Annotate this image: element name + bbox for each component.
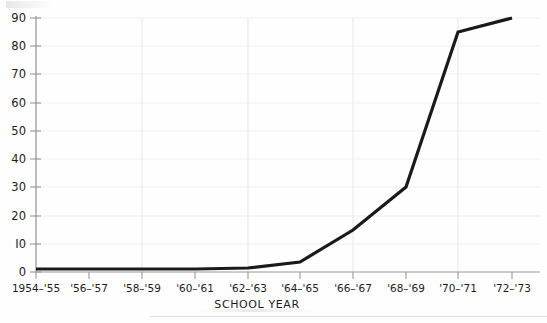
y-tick-label-50: 50 [11,124,26,138]
y-tick-label-90: 90 [11,11,26,25]
x-tick-label-9: '72–'73 [493,282,531,294]
x-tick-label-8: '70–'71 [439,282,477,294]
x-tick-label-6: '66–'67 [334,282,372,294]
y-tick-label-80: 80 [11,39,26,53]
x-axis-tick-labels: 1954–'55 '56–'57 '58–'59 '60–'61 '62–'63… [12,282,531,294]
y-tick-label-0: 0 [19,265,26,279]
x-tick-label-3: '60–'61 [176,282,214,294]
y-tick-label-40: 40 [11,152,26,166]
gridlines-vertical [36,18,458,272]
y-axis-tick-labels: 90 80 70 60 50 40 30 20 I0 0 [11,11,26,279]
y-tick-label-70: 70 [11,67,26,81]
line-chart-plot: 90 80 70 60 50 40 30 20 I0 0 1954–'55 [0,0,547,323]
y-tick-label-10: I0 [15,237,26,251]
y-tick-label-60: 60 [11,96,26,110]
y-tick-label-30: 30 [11,180,26,194]
y-axis [30,16,41,272]
x-tick-label-5: '64–'65 [281,282,319,294]
page-artifact-blur [196,309,316,312]
x-tick-label-2: '58–'59 [123,282,161,294]
gridlines-horizontal [36,18,540,244]
x-tick-label-1: '56–'57 [70,282,108,294]
x-tick-label-4: '62–'63 [229,282,267,294]
chart-container: 90 80 70 60 50 40 30 20 I0 0 1954–'55 [0,0,547,323]
x-axis [36,272,540,279]
y-tick-label-20: 20 [11,209,26,223]
x-tick-label-7: '68–'69 [387,282,425,294]
data-series-line [36,18,512,269]
x-tick-label-0: 1954–'55 [12,282,60,294]
page-bottom-rule [150,316,547,317]
